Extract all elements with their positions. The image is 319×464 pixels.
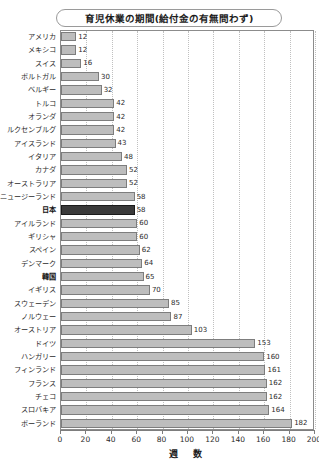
bar-row: 65 xyxy=(61,271,313,284)
x-tick-mark-0 xyxy=(60,430,61,434)
category-label-トルコ: トルコ xyxy=(35,97,56,110)
category-label-スペイン: スペイン xyxy=(29,243,56,256)
bar-row: 162 xyxy=(61,391,313,404)
bar-row: 16 xyxy=(61,58,313,71)
bar-韓国 xyxy=(61,272,144,281)
bar-value-label: 103 xyxy=(194,325,207,336)
x-tick-label-40: 40 xyxy=(99,435,123,444)
bar-value-label: 161 xyxy=(267,365,280,376)
x-tick-mark-160 xyxy=(263,430,264,434)
chart-plot-area: 1212163032424242434852525858606062646570… xyxy=(60,30,314,430)
bar-ドイツ xyxy=(61,339,255,348)
bar-value-label: 43 xyxy=(118,138,127,149)
bar-ベルギー xyxy=(61,85,102,94)
bar-value-label: 30 xyxy=(101,72,110,83)
bar-トルコ xyxy=(61,99,114,108)
bar-row: 52 xyxy=(61,164,313,177)
category-label-ルクセンブルグ: ルクセンブルグ xyxy=(7,123,56,136)
bar-ハンガリー xyxy=(61,352,264,361)
x-tick-mark-40 xyxy=(111,430,112,434)
x-tick-label-200: 200 xyxy=(302,435,319,444)
category-label-スイス: スイス xyxy=(35,57,56,70)
bar-row: 87 xyxy=(61,311,313,324)
bar-オーストリア xyxy=(61,325,192,334)
category-label-フランス: フランス xyxy=(28,377,56,390)
bar-ポルトガル xyxy=(61,72,99,81)
x-tick-mark-80 xyxy=(162,430,163,434)
bar-フランス xyxy=(61,379,267,388)
bar-value-label: 65 xyxy=(146,272,155,283)
category-label-フィンランド: フィンランド xyxy=(14,363,56,376)
bar-value-label: 60 xyxy=(139,218,148,229)
x-tick-mark-100 xyxy=(187,430,188,434)
category-label-韓国: 韓国 xyxy=(42,270,56,283)
x-axis-title: 週 数 xyxy=(60,447,314,460)
x-tick-label-100: 100 xyxy=(175,435,199,444)
category-label-オーストラリア: オーストラリア xyxy=(7,177,56,190)
bar-カナダ xyxy=(61,165,127,174)
bar-アイルランド xyxy=(61,219,137,228)
bar-row: 32 xyxy=(61,84,313,97)
bar-row: 70 xyxy=(61,284,313,297)
category-label-ノルウェー: ノルウェー xyxy=(21,310,56,323)
bar-row: 161 xyxy=(61,364,313,377)
bar-row: 164 xyxy=(61,404,313,417)
bar-value-label: 42 xyxy=(116,98,125,109)
bar-value-label: 58 xyxy=(137,192,146,203)
x-tick-mark-60 xyxy=(136,430,137,434)
bar-スロバキア xyxy=(61,405,269,414)
bar-ノルウェー xyxy=(61,312,171,321)
bar-row: 43 xyxy=(61,138,313,151)
category-label-チェコ: チェコ xyxy=(35,390,56,403)
bar-value-label: 52 xyxy=(129,165,138,176)
category-label-カナダ: カナダ xyxy=(35,163,56,176)
category-label-アイルランド: アイルランド xyxy=(14,217,56,230)
category-label-スウェーデン: スウェーデン xyxy=(14,297,56,310)
bar-value-label: 70 xyxy=(152,285,161,296)
bar-value-label: 160 xyxy=(266,352,279,363)
bar-row: 153 xyxy=(61,338,313,351)
x-tick-label-0: 0 xyxy=(48,435,72,444)
bar-value-label: 85 xyxy=(171,298,180,309)
x-tick-label-180: 180 xyxy=(277,435,301,444)
bar-イギリス xyxy=(61,285,150,294)
bar-row: 62 xyxy=(61,244,313,257)
bar-アメリカ xyxy=(61,32,76,41)
bar-row: 58 xyxy=(61,191,313,204)
bar-row: 12 xyxy=(61,44,313,57)
bar-デンマーク xyxy=(61,259,142,268)
bar-チェコ xyxy=(61,392,267,401)
x-tick-label-160: 160 xyxy=(251,435,275,444)
bar-スペイン xyxy=(61,245,140,254)
bar-日本 xyxy=(61,205,135,214)
bar-スウェーデン xyxy=(61,299,169,308)
x-tick-mark-200 xyxy=(314,430,315,434)
cutoff-header-text xyxy=(4,0,204,6)
bar-row: 60 xyxy=(61,231,313,244)
bar-ニュージーランド xyxy=(61,192,135,201)
bar-ルクセンブルグ xyxy=(61,125,114,134)
category-label-メキシコ: メキシコ xyxy=(28,43,56,56)
x-tick-label-120: 120 xyxy=(200,435,224,444)
category-label-アメリカ: アメリカ xyxy=(28,30,56,43)
bar-row: 60 xyxy=(61,218,313,231)
x-tick-label-80: 80 xyxy=(150,435,174,444)
bar-イタリア xyxy=(61,152,122,161)
category-label-デンマーク: デンマーク xyxy=(21,257,56,270)
category-label-ニュージーランド: ニュージーランド xyxy=(0,190,56,203)
x-tick-mark-120 xyxy=(212,430,213,434)
bar-value-label: 32 xyxy=(104,85,113,96)
bar-value-label: 16 xyxy=(83,58,92,69)
bar-row: 52 xyxy=(61,178,313,191)
bar-value-label: 153 xyxy=(257,338,270,349)
bar-value-label: 62 xyxy=(142,245,151,256)
category-label-ハンガリー: ハンガリー xyxy=(21,350,56,363)
x-tick-mark-140 xyxy=(238,430,239,434)
category-label-イギリス: イギリス xyxy=(28,283,56,296)
bar-value-label: 42 xyxy=(116,112,125,123)
x-tick-label-60: 60 xyxy=(124,435,148,444)
category-label-アイスランド: アイスランド xyxy=(14,137,56,150)
category-label-ベルギー: ベルギー xyxy=(28,83,56,96)
category-label-日本: 日本 xyxy=(42,203,56,216)
bar-row: 42 xyxy=(61,124,313,137)
